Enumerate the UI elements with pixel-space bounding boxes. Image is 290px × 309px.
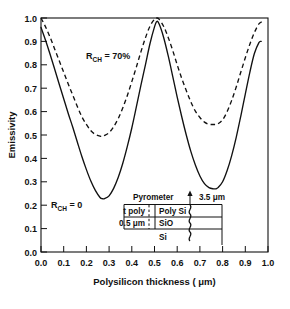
y-tick-label: 0.0 [24, 248, 37, 258]
svg-text:RCH = 70%: RCH = 70% [86, 51, 130, 63]
x-axis-ticks [41, 246, 268, 252]
x-tick-label: 1.0 [262, 258, 275, 268]
annotation-subscript: CH [93, 56, 103, 63]
y-tick-label: 0.8 [24, 60, 37, 70]
annotation-suffix: = 0 [67, 200, 82, 210]
x-tick-label: 0.5 [148, 258, 161, 268]
y-tick-label: 0.7 [24, 84, 37, 94]
y-tick-label: 1.0 [24, 14, 37, 24]
y-axis-title: Emissivity [6, 111, 17, 159]
annotation-rch-70: RCH = 70% [86, 51, 130, 63]
x-tick-label: 0.7 [194, 258, 207, 268]
y-tick-label: 0.9 [24, 37, 37, 47]
x-tick-label: 0.1 [57, 258, 70, 268]
y-tick-label: 0.3 [24, 177, 37, 187]
x-tick-label: 0.2 [80, 258, 93, 268]
x-tick-label: 0.6 [171, 258, 184, 268]
svg-text:RCH = 0: RCH = 0 [51, 200, 82, 212]
pyrometer-stack-diagram: Pyrometer 3.5 μm [119, 191, 225, 246]
oxide-thickness-label: 0.5 μm [119, 219, 145, 228]
sio2-layer-label: SiO [159, 219, 174, 228]
y-tick-label: 0.2 [24, 201, 37, 211]
wavy-ray-icon [189, 205, 191, 241]
x-tick-label: 0.4 [126, 258, 139, 268]
x-tick-label: 0.8 [216, 258, 229, 268]
x-tick-label: 0.0 [35, 258, 48, 268]
x-tick-label: 0.3 [103, 258, 116, 268]
emissivity-chart: 1.0 0.9 0.8 0.7 0.6 0.5 0.4 0.3 0.2 0.1 … [0, 0, 290, 309]
y-tick-label: 0.5 [24, 131, 37, 141]
si-substrate-label: Si [159, 233, 167, 242]
up-arrow-icon [187, 191, 192, 205]
x-tick-label: 0.9 [239, 258, 252, 268]
y-tick-label: 0.6 [24, 107, 37, 117]
x-axis-title: Polysilicon thickness ( μm) [93, 276, 215, 287]
t-poly-label: t poly [123, 207, 145, 216]
y-axis-ticks [41, 18, 47, 252]
wavelength-label: 3.5 μm [199, 193, 225, 202]
annotation-subscript: CH [58, 205, 68, 212]
y-axis-tick-labels: 1.0 0.9 0.8 0.7 0.6 0.5 0.4 0.3 0.2 0.1 … [24, 14, 37, 258]
y-tick-label: 0.4 [24, 154, 37, 164]
pyrometer-label: Pyrometer [133, 193, 174, 202]
x-axis-tick-labels: 0.0 0.1 0.2 0.3 0.4 0.5 0.6 0.7 0.8 0.9 … [35, 258, 275, 268]
poly-si-layer-label: Poly Si [159, 207, 186, 216]
annotation-suffix: = 70% [102, 51, 130, 61]
y-tick-label: 0.1 [24, 224, 37, 234]
annotation-rch-0: RCH = 0 [51, 200, 82, 212]
chart-figure: 1.0 0.9 0.8 0.7 0.6 0.5 0.4 0.3 0.2 0.1 … [0, 0, 290, 309]
